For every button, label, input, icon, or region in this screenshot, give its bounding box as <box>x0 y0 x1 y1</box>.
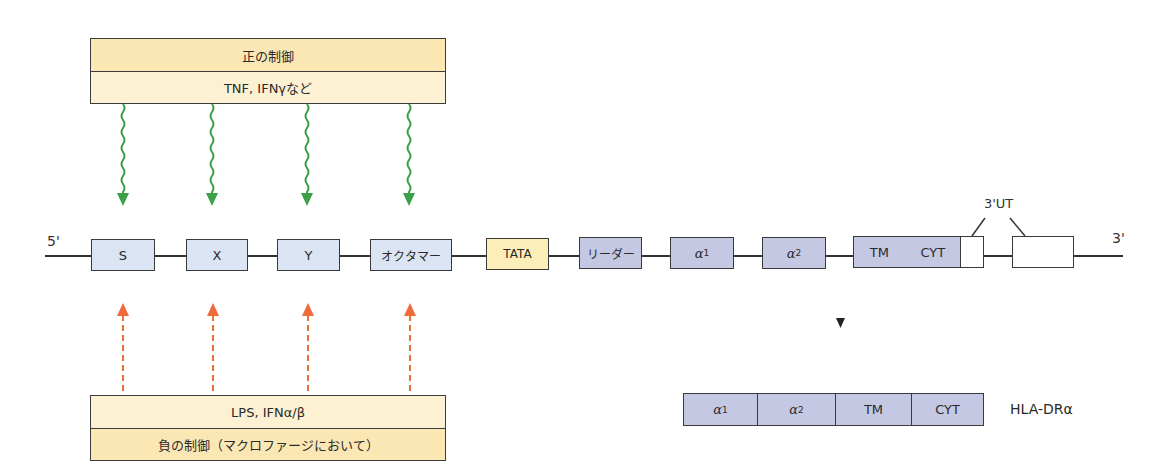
positive-arrowheads <box>117 193 415 206</box>
segment-3utr-a <box>960 236 984 268</box>
segment-octamer: オクタマー <box>370 239 452 271</box>
positive-arrow-icon <box>122 104 411 197</box>
segment-alpha1: α1 <box>670 237 734 269</box>
negative-arrowheads <box>117 303 416 316</box>
segment-s: S <box>91 239 155 271</box>
down-triangle-icon <box>836 318 845 328</box>
protein-domain-alpha1: α1 <box>684 394 757 425</box>
utr-label: 3'UT <box>984 196 1013 211</box>
segment-leader: リーダー <box>579 237 642 269</box>
protein-bar: α1 α2 TM CYT <box>683 393 984 426</box>
protein-domain-alpha2: α2 <box>757 394 835 425</box>
three-prime-label: 3' <box>1112 230 1125 246</box>
protein-domain-tm: TM <box>835 394 911 425</box>
protein-name: HLA-DRα <box>1010 401 1073 417</box>
segment-3utr-b <box>1012 236 1074 268</box>
protein-domain-cyt: CYT <box>911 394 983 425</box>
negative-arrow-icon <box>123 315 410 391</box>
segment-x: X <box>186 239 248 271</box>
segment-alpha2: α2 <box>762 237 826 269</box>
segment-tata-box: TATA <box>486 238 549 270</box>
segment-tm-cyt: TM CYT <box>853 236 961 268</box>
five-prime-label: 5' <box>47 233 60 249</box>
segment-y: Y <box>277 239 340 271</box>
utr-connector <box>972 218 1025 236</box>
